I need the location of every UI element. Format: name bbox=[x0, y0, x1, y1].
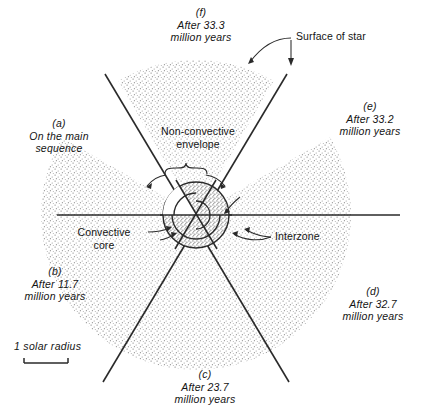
non-convective-envelope-line1: Non-convective bbox=[128, 125, 268, 138]
stage-label-e-tag: (e) bbox=[317, 100, 423, 113]
stage-label-d-line2: million years bbox=[320, 310, 426, 323]
stage-label-e-line1: After 33.2 bbox=[317, 113, 423, 126]
scale-bar-label: 1 solar radius bbox=[14, 340, 81, 352]
stage-label-f-line1: After 33.3 bbox=[146, 19, 256, 32]
stage-label-a-tag: (a) bbox=[4, 117, 114, 130]
convective-core-label: Convective core bbox=[60, 226, 148, 251]
stage-label-e: (e) After 33.2 million years bbox=[317, 100, 423, 138]
stage-label-a-line1: On the main bbox=[4, 130, 114, 143]
stage-label-c-line2: million years bbox=[152, 393, 258, 406]
figure-container: (f) After 33.3 million years (a) On the … bbox=[0, 0, 427, 414]
scale-bar-text: 1 solar radius bbox=[14, 340, 81, 352]
stage-label-b-tag: (b) bbox=[2, 265, 108, 278]
stage-label-d-tag: (d) bbox=[320, 285, 426, 298]
non-convective-envelope-line2: envelope bbox=[128, 138, 268, 151]
stage-label-a-line2: sequence bbox=[4, 142, 114, 155]
surface-of-star-text: Surface of star bbox=[296, 30, 398, 43]
stage-label-b-line1: After 11.7 bbox=[2, 278, 108, 291]
stage-label-c-line1: After 23.7 bbox=[152, 381, 258, 394]
convective-core-line2: core bbox=[60, 239, 148, 252]
stage-label-e-line2: million years bbox=[317, 125, 423, 138]
interzone-label: Interzone bbox=[275, 230, 347, 243]
stage-label-f: (f) After 33.3 million years bbox=[146, 6, 256, 44]
stage-label-a: (a) On the main sequence bbox=[4, 117, 114, 155]
stage-label-b: (b) After 11.7 million years bbox=[2, 265, 108, 303]
stage-label-c-tag: (c) bbox=[152, 368, 258, 381]
surface-arrowhead-down bbox=[288, 58, 294, 66]
surface-of-star-label: Surface of star bbox=[296, 30, 398, 43]
scale-bar bbox=[24, 358, 68, 363]
non-convective-envelope-label: Non-convective envelope bbox=[128, 125, 268, 150]
surface-leader-curved bbox=[250, 38, 291, 62]
stage-label-b-line2: million years bbox=[2, 290, 108, 303]
stage-label-d: (d) After 32.7 million years bbox=[320, 285, 426, 323]
convective-core-line1: Convective bbox=[60, 226, 148, 239]
stage-label-f-tag: (f) bbox=[146, 6, 256, 19]
stage-label-c: (c) After 23.7 million years bbox=[152, 368, 258, 406]
interzone-text: Interzone bbox=[275, 230, 347, 243]
stage-label-f-line2: million years bbox=[146, 31, 256, 44]
stage-label-d-line1: After 32.7 bbox=[320, 298, 426, 311]
